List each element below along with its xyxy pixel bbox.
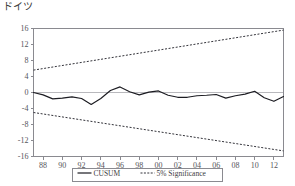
y-axis-tick-label: 8 [25, 56, 29, 65]
x-axis-tick-label: 10 [251, 161, 259, 170]
chart-legend: CUSUM 5% Significance [73, 169, 223, 182]
legend-label-cusum: CUSUM [94, 169, 121, 178]
y-axis-tick-label: -4 [22, 104, 29, 113]
chart-plot-area: 1612840-4-8-12-16 8890929496980002040608… [0, 0, 295, 186]
y-axis-tick-label: -12 [18, 136, 29, 145]
cusum-chart: ドイツ 1612840-4-8-12-16 889092949698000204… [0, 0, 295, 186]
cusum-series-line [34, 87, 284, 105]
y-axis-tick-label: -8 [22, 120, 29, 129]
y-axis-tick-label: -16 [18, 152, 29, 161]
x-axis-tick-label: 08 [231, 161, 239, 170]
x-axis-tick-label: 88 [39, 161, 47, 170]
legend-label-significance: 5% Significance [157, 169, 207, 178]
x-axis-tick-label: 90 [58, 161, 66, 170]
y-axis-tick-label: 12 [21, 40, 29, 49]
x-axis-tick-label: 12 [270, 161, 278, 170]
y-axis-tick-label: 4 [25, 72, 29, 81]
y-axis-tick-labels: 1612840-4-8-12-16 [18, 24, 29, 161]
significance-band-lower [34, 113, 284, 151]
y-axis-tick-label: 0 [25, 88, 29, 97]
significance-band-upper [34, 30, 284, 70]
y-axis-tick-label: 16 [21, 24, 29, 33]
